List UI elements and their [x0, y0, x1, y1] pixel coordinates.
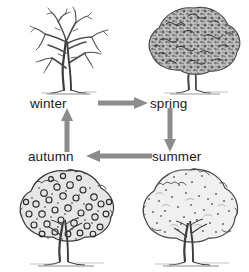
arrow-spring-to-summer-icon: [163, 108, 177, 152]
fruiting-tree-icon: [10, 166, 122, 268]
season-label-summer: summer: [152, 150, 201, 164]
full-leaf-tree-icon: [134, 166, 246, 268]
season-label-autumn: autumn: [28, 150, 74, 164]
arrow-summer-to-autumn-icon: [86, 149, 152, 163]
blossoming-tree-icon: [140, 2, 248, 96]
bare-tree-icon: [14, 6, 122, 96]
season-label-spring: spring: [150, 97, 187, 111]
season-label-winter: winter: [30, 97, 67, 111]
seasons-cycle-diagram: winter spring autumn summer: [0, 0, 249, 272]
arrow-autumn-to-winter-icon: [60, 108, 74, 152]
arrow-winter-to-spring-icon: [98, 96, 148, 110]
